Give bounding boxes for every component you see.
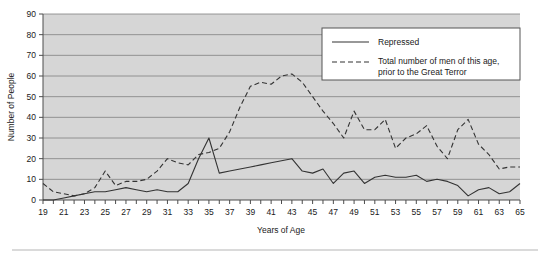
y-tick-label: 0	[31, 195, 36, 205]
y-axis-title: Number of People	[6, 72, 16, 141]
y-tick-label: 50	[27, 92, 37, 102]
x-tick-label: 55	[412, 207, 422, 217]
x-tick-label: 59	[453, 207, 463, 217]
y-tick-label: 70	[27, 50, 37, 60]
y-tick-label: 90	[27, 9, 37, 19]
x-tick-label: 25	[100, 207, 110, 217]
x-tick-label: 33	[183, 207, 193, 217]
y-tick-label: 20	[27, 154, 37, 164]
legend-label-total-line1: Total number of men of this age,	[378, 56, 499, 66]
x-tick-label: 23	[80, 207, 90, 217]
x-tick-label: 47	[329, 207, 339, 217]
x-tick-label: 39	[246, 207, 256, 217]
x-axis-title: Years of Age	[257, 225, 305, 235]
x-tick-label: 57	[432, 207, 442, 217]
line-chart: 0102030405060708090 19212325272931333537…	[0, 0, 550, 257]
x-tick-label: 27	[121, 207, 131, 217]
x-tick-label: 37	[225, 207, 235, 217]
x-tick-label: 43	[287, 207, 297, 217]
x-tick-label: 51	[370, 207, 380, 217]
x-tick-label: 49	[349, 207, 359, 217]
y-tick-label: 40	[27, 112, 37, 122]
x-tick-label: 19	[38, 207, 48, 217]
y-tick-label: 30	[27, 133, 37, 143]
legend-label-repressed: Repressed	[378, 37, 419, 47]
legend: Repressed Total number of men of this ag…	[322, 28, 520, 80]
chart-figure: 0102030405060708090 19212325272931333537…	[0, 0, 550, 257]
x-tick-label: 63	[495, 207, 505, 217]
y-tick-label: 80	[27, 30, 37, 40]
y-tick-label: 60	[27, 71, 37, 81]
x-tick-label: 41	[266, 207, 276, 217]
x-tick-label: 31	[163, 207, 173, 217]
x-tick-label: 61	[474, 207, 484, 217]
y-tick-label: 10	[27, 174, 37, 184]
x-tick-label: 65	[515, 207, 525, 217]
x-tick-label: 45	[308, 207, 318, 217]
x-tick-label: 53	[391, 207, 401, 217]
x-tick-label: 21	[59, 207, 69, 217]
x-tick-label: 29	[142, 207, 152, 217]
legend-label-total-line2: prior to the Great Terror	[378, 67, 467, 77]
x-tick-label: 35	[204, 207, 214, 217]
